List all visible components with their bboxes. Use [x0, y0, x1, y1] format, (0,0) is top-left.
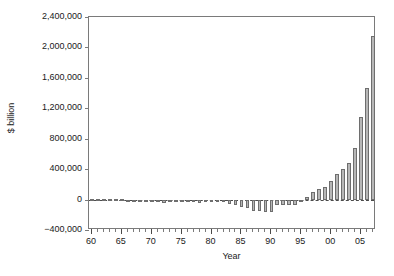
- bar: [174, 200, 178, 202]
- bar: [204, 200, 208, 202]
- bar: [144, 200, 148, 202]
- x-axis-tick-major: [181, 229, 182, 234]
- bar: [353, 148, 357, 200]
- bar: [293, 200, 297, 206]
- y-axis-tick-label: 1,200,000: [42, 103, 82, 112]
- bar: [264, 200, 268, 213]
- x-axis-tick-minor: [342, 229, 343, 232]
- bar: [138, 200, 142, 202]
- x-axis-tick-minor: [246, 229, 247, 232]
- x-axis-tick-label: 80: [206, 236, 216, 246]
- bar: [305, 197, 309, 199]
- x-axis-tick-label: 75: [176, 236, 186, 246]
- x-axis-tick-major: [330, 229, 331, 234]
- bar: [108, 199, 112, 201]
- y-axis-tick-mark: [85, 17, 89, 18]
- x-axis-tick-label: 85: [235, 236, 245, 246]
- x-axis-tick-minor: [115, 229, 116, 232]
- bar: [347, 163, 351, 199]
- x-axis-tick-minor: [312, 229, 313, 232]
- x-axis-tick-minor: [372, 229, 373, 232]
- y-axis-tick-label: 0: [77, 194, 82, 203]
- x-axis-tick-label: 95: [295, 236, 305, 246]
- bar: [252, 200, 256, 211]
- x-axis-tick-minor: [163, 229, 164, 232]
- bar: [281, 200, 285, 205]
- bar: [120, 199, 124, 201]
- x-axis-tick-minor: [306, 229, 307, 232]
- x-axis-tick-minor: [234, 229, 235, 232]
- x-axis-tick-minor: [294, 229, 295, 232]
- x-axis-tick-label: 65: [116, 236, 126, 246]
- x-axis-tick-major: [360, 229, 361, 234]
- y-axis-tick-labels: −400,0000400,000800,0001,200,0001,600,00…: [16, 0, 86, 276]
- y-axis-tick-label: 800,000: [49, 133, 82, 142]
- x-axis-tick-minor: [252, 229, 253, 232]
- bar: [168, 200, 172, 202]
- bar: [246, 200, 250, 208]
- bar: [311, 192, 315, 199]
- x-axis-tick-minor: [157, 229, 158, 232]
- x-axis-tick-minor: [348, 229, 349, 232]
- bar: [192, 200, 196, 203]
- bar: [96, 199, 100, 201]
- bar: [359, 117, 363, 199]
- x-axis-tick-minor: [324, 229, 325, 232]
- bar: [323, 187, 327, 199]
- bar: [114, 199, 118, 201]
- x-axis-tick-minor: [205, 229, 206, 232]
- bar: [365, 88, 369, 200]
- x-axis-tick-minor: [217, 229, 218, 232]
- plot-area: [88, 16, 375, 229]
- bar: [234, 200, 238, 206]
- chart-figure: $ billion −400,0000400,000800,0001,200,0…: [0, 0, 394, 276]
- x-axis-tick-minor: [288, 229, 289, 232]
- x-axis-tick-minor: [318, 229, 319, 232]
- x-axis-tick-minor: [97, 229, 98, 232]
- bar: [240, 200, 244, 207]
- x-axis-tick-major: [91, 229, 92, 234]
- x-axis-tick-label: 70: [146, 236, 156, 246]
- x-axis-tick-minor: [229, 229, 230, 232]
- bar: [228, 200, 232, 204]
- y-axis-tick-mark: [85, 139, 89, 140]
- bar: [150, 200, 154, 202]
- x-axis-tick-minor: [354, 229, 355, 232]
- y-axis-tick-mark: [85, 78, 89, 79]
- bar: [317, 189, 321, 200]
- bar: [132, 200, 136, 202]
- x-axis-tick-major: [151, 229, 152, 234]
- x-axis-tick-major: [211, 229, 212, 234]
- bar: [335, 174, 339, 199]
- x-axis-tick-major: [270, 229, 271, 234]
- x-axis-tick-minor: [193, 229, 194, 232]
- bar: [102, 199, 106, 201]
- bar: [210, 200, 214, 202]
- bar: [156, 200, 160, 202]
- bar: [126, 200, 130, 202]
- y-axis-tick-mark: [85, 108, 89, 109]
- x-axis-label: Year: [88, 251, 375, 261]
- bar: [198, 200, 202, 203]
- x-axis-tick-minor: [336, 229, 337, 232]
- x-axis-tick-minor: [175, 229, 176, 232]
- x-axis-tick-label: 00: [325, 236, 335, 246]
- x-axis-tick-minor: [264, 229, 265, 232]
- y-axis-tick-mark: [85, 47, 89, 48]
- x-axis-tick-minor: [169, 229, 170, 232]
- bar: [90, 199, 94, 201]
- x-axis-tick-major: [240, 229, 241, 234]
- x-axis-tick-minor: [276, 229, 277, 232]
- bar: [222, 200, 226, 202]
- bar: [371, 36, 375, 200]
- y-axis-label-text: $ billion: [6, 103, 16, 134]
- y-axis-tick-mark: [85, 169, 89, 170]
- bar: [287, 200, 291, 205]
- y-axis-tick-mark: [85, 200, 89, 201]
- x-axis-tick-minor: [223, 229, 224, 232]
- x-axis-tick-minor: [109, 229, 110, 232]
- y-axis-tick-label: 400,000: [49, 164, 82, 173]
- bar: [180, 200, 184, 202]
- x-axis-tick-minor: [145, 229, 146, 232]
- x-axis-tick-major: [121, 229, 122, 234]
